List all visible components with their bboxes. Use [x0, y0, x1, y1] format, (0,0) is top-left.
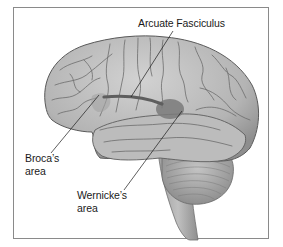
wernickes-area-line2: area	[77, 202, 127, 215]
brocas-area-label: Broca’s area	[25, 152, 59, 177]
brain-illustration	[0, 0, 283, 247]
brocas-area-line1: Broca’s	[25, 152, 59, 165]
arcuate-fasciculus-text: Arcuate Fasciculus	[138, 17, 225, 29]
arcuate-fasciculus-label: Arcuate Fasciculus	[138, 17, 225, 30]
brocas-area-line2: area	[25, 165, 59, 178]
wernickes-area-label: Wernicke’s area	[77, 189, 127, 214]
wernickes-area-line1: Wernicke’s	[77, 189, 127, 202]
